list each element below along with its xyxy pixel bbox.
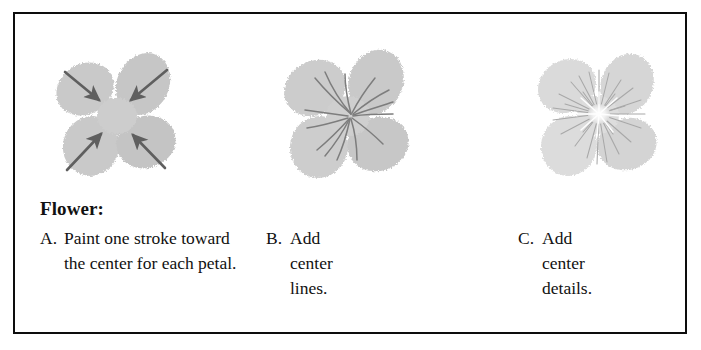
figure-page: Flower: A. Paint one stroke toward the c… [0,0,701,350]
flower-illustration-c [513,34,683,194]
flower-illustration-a [33,34,203,194]
step-a-text: Paint one stroke toward the center for e… [64,226,250,276]
caption-block: Flower: A. Paint one stroke toward the c… [13,190,687,334]
step-b: B. Add center lines. [266,226,416,301]
step-c-letter: C. [518,226,542,251]
step-b-text: Add center lines. [290,226,416,301]
step-c-text: Add center details. [542,226,678,301]
step-a-letter: A. [40,226,64,251]
step-c: C. Add center details. [518,226,678,301]
step-a: A. Paint one stroke toward the center fo… [40,226,250,276]
step-b-letter: B. [266,226,290,251]
flower-illustration-b [263,34,433,194]
illustration-row [13,12,687,192]
figure-title: Flower: [40,198,104,220]
